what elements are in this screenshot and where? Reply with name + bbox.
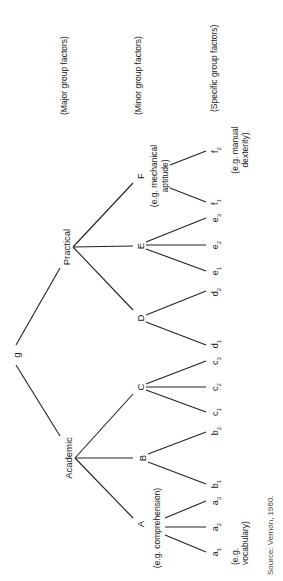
edge-e-e1 xyxy=(146,249,206,271)
edge-g-practical xyxy=(16,268,60,345)
svg-text:d2: d2 xyxy=(210,287,222,296)
edge-a-a3 xyxy=(165,501,206,518)
edge-a-a1 xyxy=(165,535,206,552)
example-a: (e.g. comprehension) xyxy=(152,488,162,568)
svg-text:c1: c1 xyxy=(210,407,222,416)
svg-text:c2: c2 xyxy=(210,382,222,391)
leaf-c3: c3 xyxy=(210,356,222,365)
svg-text:b1: b1 xyxy=(210,479,222,488)
leaf-e2: e2 xyxy=(210,240,222,249)
example-f-leaf-line1: (e.g. manual xyxy=(230,126,240,173)
vernon-hierarchy-diagram: g Practical Academic F E D C B A (e.g. m… xyxy=(0,0,283,581)
node-academic: Academic xyxy=(63,437,74,479)
edge-b-b2 xyxy=(148,432,206,454)
example-a-leaf-line2: vocabulary) xyxy=(240,521,250,565)
leaf-b2: b2 xyxy=(210,426,222,435)
svg-text:f2: f2 xyxy=(210,146,222,153)
edge-practical-e xyxy=(73,246,133,247)
node-a: A xyxy=(135,520,146,527)
edge-d-d2 xyxy=(146,291,206,315)
edge-c-c1 xyxy=(146,390,206,412)
edge-f-f2 xyxy=(170,151,206,165)
leaf-a1: a1 xyxy=(210,547,222,556)
node-e: E xyxy=(135,243,146,249)
edge-f-f1 xyxy=(170,188,206,202)
node-c: C xyxy=(135,383,146,390)
leaf-a3: a3 xyxy=(210,496,222,505)
leaf-f1: f1 xyxy=(210,198,222,205)
svg-text:a1: a1 xyxy=(210,547,222,556)
edge-g-academic xyxy=(16,365,60,436)
edge-e-e3 xyxy=(146,218,206,242)
edge-d-d1 xyxy=(146,322,206,345)
svg-text:e1: e1 xyxy=(210,266,222,275)
example-a-leaf-line1: (e.g. xyxy=(230,548,240,565)
example-f-line2: aptitude) xyxy=(160,159,170,192)
level-label-minor: (Minor group factors) xyxy=(133,36,143,115)
edge-practical-f xyxy=(73,183,133,247)
svg-text:a3: a3 xyxy=(210,496,222,505)
leaf-a2: a2 xyxy=(210,522,222,531)
leaf-f2: f2 xyxy=(210,146,222,153)
node-b: B xyxy=(137,455,148,461)
edge-c-c3 xyxy=(146,361,206,384)
svg-text:b2: b2 xyxy=(210,426,222,435)
source-caption: Source: Vernon, 1960. xyxy=(266,495,275,575)
leaf-e1: e1 xyxy=(210,266,222,275)
node-g: g xyxy=(11,352,22,357)
node-practical: Practical xyxy=(61,229,72,265)
example-f-line1: (e.g. mechanical xyxy=(149,145,159,207)
edges xyxy=(16,151,206,552)
svg-text:f1: f1 xyxy=(210,198,222,205)
svg-text:d1: d1 xyxy=(210,339,222,348)
leaf-c1: c1 xyxy=(210,407,222,416)
svg-text:e3: e3 xyxy=(210,213,222,222)
svg-text:a2: a2 xyxy=(210,522,222,531)
leaf-b1: b1 xyxy=(210,479,222,488)
svg-text:c3: c3 xyxy=(210,356,222,365)
edge-academic-a xyxy=(75,458,133,518)
edge-b-b1 xyxy=(148,462,206,484)
edge-academic-c xyxy=(75,394,133,458)
edge-practical-d xyxy=(73,247,133,310)
leaf-e3: e3 xyxy=(210,213,222,222)
leaf-d2: d2 xyxy=(210,287,222,296)
example-f-leaf-line2: dexterity) xyxy=(240,132,250,167)
leaf-c2: c2 xyxy=(210,382,222,391)
level-label-major: (Major group factors) xyxy=(59,36,69,115)
node-f: F xyxy=(135,173,146,179)
leaf-d1: d1 xyxy=(210,339,222,348)
svg-text:e2: e2 xyxy=(210,240,222,249)
level-label-specific: (Specific group factors) xyxy=(209,24,219,112)
node-d: D xyxy=(135,314,146,321)
